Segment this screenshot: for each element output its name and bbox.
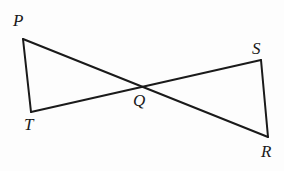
segment-SR bbox=[261, 60, 268, 137]
segment-group bbox=[23, 39, 268, 137]
vertex-label-p: P bbox=[13, 12, 23, 29]
segment-PT bbox=[23, 39, 31, 112]
segment-TS bbox=[31, 60, 261, 112]
geometry-figure: P T Q S R bbox=[0, 0, 284, 171]
vertex-label-r: R bbox=[261, 143, 271, 160]
vertex-label-s: S bbox=[252, 40, 261, 57]
segment-PR bbox=[23, 39, 268, 137]
diagram-canvas bbox=[0, 0, 284, 171]
vertex-label-t: T bbox=[24, 116, 33, 133]
vertex-label-q: Q bbox=[133, 92, 145, 109]
